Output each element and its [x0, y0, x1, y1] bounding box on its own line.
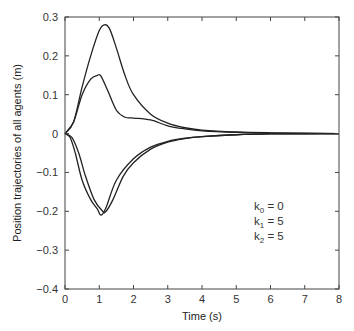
y-tick-label: −0.2	[36, 205, 58, 217]
gain-label-k2: k2 = 5	[254, 230, 284, 245]
x-tick-label: 2	[130, 293, 136, 305]
y-tick-label: −0.3	[36, 244, 58, 256]
plot-frame	[65, 17, 339, 289]
y-tick-label: 0.1	[43, 89, 58, 101]
x-tick-label: 8	[336, 293, 342, 305]
parameter-annotation: k0 = 0k1 = 5k2 = 5	[254, 200, 284, 245]
x-tick-label: 4	[199, 293, 205, 305]
x-axis: 012345678	[62, 17, 342, 305]
gain-label-k1: k1 = 5	[254, 215, 284, 230]
y-tick-label: −0.1	[36, 166, 58, 178]
x-tick-label: 6	[267, 293, 273, 305]
x-tick-label: 1	[96, 293, 102, 305]
y-tick-label: 0.3	[43, 11, 58, 23]
x-axis-title: Time (s)	[182, 310, 222, 322]
x-tick-label: 5	[233, 293, 239, 305]
chart: 012345678 0.30.20.10−0.1−0.2−0.3−0.4 Tim…	[0, 0, 354, 331]
series-line-agent-3	[65, 134, 339, 216]
y-tick-label: −0.4	[36, 283, 58, 295]
x-tick-label: 7	[302, 293, 308, 305]
x-tick-label: 0	[62, 293, 68, 305]
y-tick-label: 0.2	[43, 50, 58, 62]
series-line-agent-2	[65, 75, 339, 134]
y-tick-label: 0	[52, 128, 58, 140]
series-line-agent-1	[65, 25, 339, 134]
y-axis: 0.30.20.10−0.1−0.2−0.3−0.4	[36, 11, 339, 295]
y-axis-title: Position trajectories of all agents (m)	[11, 64, 23, 242]
gain-label-k0: k0 = 0	[254, 200, 284, 215]
series-line-agent-4	[65, 134, 339, 213]
x-tick-label: 3	[165, 293, 171, 305]
series-layer	[65, 25, 339, 216]
